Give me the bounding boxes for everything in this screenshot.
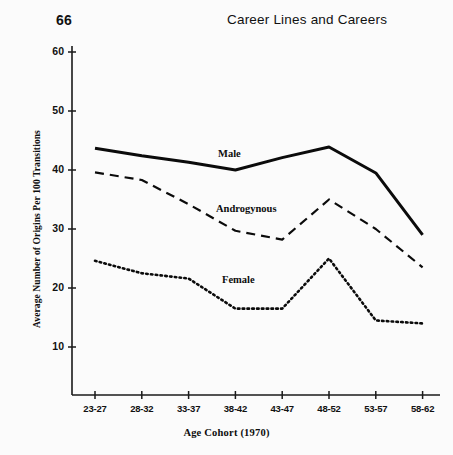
- y-axis-tick-label: 50: [38, 104, 64, 116]
- chart-page: 66 Career Lines and Careers Average Numb…: [0, 0, 453, 455]
- y-axis-tick-label: 20: [38, 281, 64, 293]
- series-line-androgynous: [95, 172, 423, 267]
- chart-canvas: [0, 0, 453, 455]
- y-axis-tick-label: 10: [38, 340, 64, 352]
- x-axis-tick-label: 58-62: [396, 403, 450, 414]
- series-label-androgynous: Androgynous: [216, 203, 277, 214]
- y-axis-tick-label: 40: [38, 163, 64, 175]
- series-line-female: [95, 259, 423, 324]
- series-label-male: Male: [218, 148, 241, 159]
- series-label-female: Female: [222, 274, 255, 285]
- series-line-male: [95, 147, 423, 235]
- y-axis-tick-label: 30: [38, 222, 64, 234]
- x-axis-title: Age Cohort (1970): [0, 427, 453, 438]
- y-axis-tick-label: 60: [38, 45, 64, 57]
- line-chart: Average Number of Origins Per 100 Transi…: [0, 0, 453, 455]
